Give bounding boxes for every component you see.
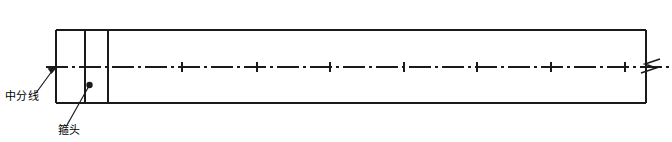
- beam-elevation-svg: [0, 0, 672, 142]
- label-hoop-head: 箍头: [58, 125, 81, 137]
- center-line-leader: [36, 67, 57, 93]
- leader-dot-icon: [86, 82, 92, 88]
- drawing-canvas: 中分线 箍头: [0, 0, 672, 142]
- stirrup-lines-group: [182, 0, 625, 72]
- hoop-head-leader-stem: [67, 86, 89, 125]
- label-center-line: 中分线: [5, 91, 39, 103]
- break-line-icon: [641, 59, 660, 73]
